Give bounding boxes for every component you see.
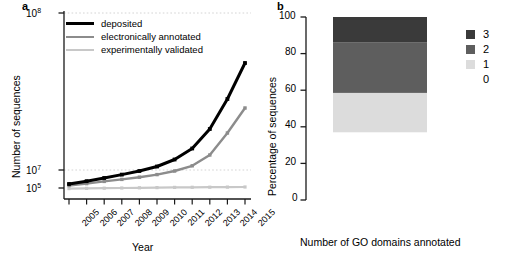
bar-segment-0[interactable]	[333, 132, 427, 200]
panel-b-ylabel: Percentage of sequences	[266, 77, 278, 196]
bar-segment-1[interactable]	[333, 93, 427, 132]
panel-b-ytick-100: 100	[279, 11, 296, 21]
stacked-bar[interactable]	[333, 17, 427, 200]
legend-swatch-go-3	[466, 30, 475, 39]
legend-label-go-2: 2	[483, 44, 489, 55]
bar-segment-3[interactable]	[333, 17, 427, 43]
bar-segment-2[interactable]	[333, 43, 427, 93]
legend-item-go-3[interactable]: 3	[466, 27, 489, 42]
figure-root: a Number of sequences 108 107 105	[0, 0, 516, 264]
panel-b-caption: Number of GO domains annotated	[300, 236, 461, 248]
legend-item-go-1[interactable]: 1	[466, 57, 489, 72]
panel-b-ytick-60: 60	[285, 84, 296, 94]
panel-b-legend: 3 2 1 0	[466, 27, 489, 87]
panel-b-ytick-80: 80	[285, 47, 296, 57]
panel-a-xlabel: Year	[132, 241, 153, 253]
legend-label-go-3: 3	[483, 29, 489, 40]
legend-item-go-2[interactable]: 2	[466, 42, 489, 57]
xtick-2015: 2015	[256, 207, 277, 228]
panel-b-ytick-20: 20	[285, 157, 296, 167]
legend-label-go-0: 0	[483, 74, 489, 85]
panel-b-ytick-0: 0	[292, 193, 298, 203]
legend-swatch-go-0	[466, 75, 475, 84]
panel-b-ytick-40: 40	[285, 120, 296, 130]
legend-swatch-go-2	[466, 45, 475, 54]
legend-swatch-go-1	[466, 60, 475, 69]
panel-b-y-ticks	[301, 17, 307, 200]
panel-a-x-tick-labels: 2005 2006 2007 2008 2009 2010 2011 2012 …	[0, 0, 260, 264]
panel-b-plot-area	[300, 5, 460, 210]
legend-label-go-1: 1	[483, 59, 489, 70]
legend-item-go-0[interactable]: 0	[466, 72, 489, 87]
